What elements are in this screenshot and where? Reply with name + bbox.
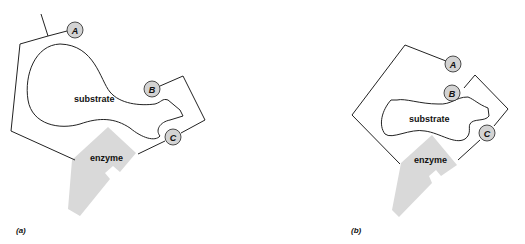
site-b-b: B: [444, 85, 460, 101]
enzyme-shape-a: [68, 127, 136, 216]
site-a-a: A: [67, 22, 83, 38]
link-c-enzyme-a: [138, 141, 165, 154]
panel-b: A B C substrate enzyme (b): [351, 45, 508, 235]
site-b-a: B: [144, 81, 160, 97]
svg-text:A: A: [449, 60, 457, 70]
panel-label-a: (a): [16, 226, 26, 235]
substrate-label-a: substrate: [74, 94, 115, 104]
svg-text:A: A: [71, 26, 79, 36]
svg-text:B: B: [449, 89, 456, 99]
site-c-a: C: [165, 129, 181, 145]
stalk-a: [41, 14, 48, 36]
enzyme-label-a: enzyme: [90, 153, 123, 163]
substrate-label-b: substrate: [409, 114, 450, 124]
svg-text:C: C: [484, 129, 491, 139]
site-a-b: A: [445, 56, 461, 72]
enzyme-substrate-diagram: A B C substrate enzyme (a) A B: [0, 0, 525, 244]
panel-label-b: (b): [351, 226, 362, 235]
panel-a: A B C substrate enzyme (a): [11, 14, 205, 235]
svg-text:C: C: [170, 133, 177, 143]
enzyme-shape-b: [392, 135, 457, 217]
enzyme-label-b: enzyme: [414, 155, 447, 165]
link-c-enzyme-b: [458, 140, 480, 160]
site-c-b: C: [479, 125, 495, 141]
svg-text:B: B: [149, 85, 156, 95]
